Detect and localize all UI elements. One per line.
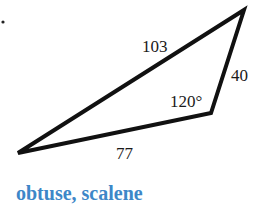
triangle-shape: [18, 10, 244, 153]
side-label-77: 77: [116, 144, 134, 163]
triangle-classification: obtuse, scalene: [16, 182, 143, 205]
triangle-diagram: 103 40 120° 77: [0, 0, 254, 209]
angle-label: 120°: [170, 92, 202, 111]
side-label-103: 103: [142, 37, 168, 56]
side-label-40: 40: [231, 66, 248, 85]
bullet-dot: [1, 20, 4, 23]
